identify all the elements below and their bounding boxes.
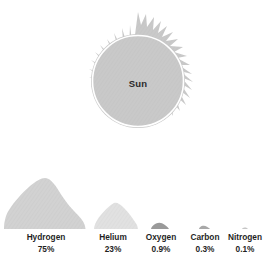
element-value-nitrogen: 0.1% [214,244,275,256]
element-name-hydrogen: Hydrogen [10,232,82,244]
element-label-nitrogen: Nitrogen 0.1% [214,232,275,255]
element-label-hydrogen: Hydrogen 75% [10,232,82,255]
element-value-hydrogen: 75% [10,244,82,256]
hill-oxygen [151,223,169,229]
hill-hydrogen [4,178,86,229]
sun-graphic: Sun [62,8,214,164]
hill-carbon [199,226,210,229]
sun-composition-infographic: Sun [0,0,275,272]
element-name-nitrogen: Nitrogen [214,232,275,244]
hills-chart [0,166,275,230]
element-proportion-shapes [0,166,275,230]
hill-nitrogen [242,227,248,229]
hill-helium [94,203,138,229]
element-labels-row: Hydrogen 75% Helium 23% Oxygen 0.9% Carb… [0,232,275,266]
sun-label: Sun [62,78,214,89]
